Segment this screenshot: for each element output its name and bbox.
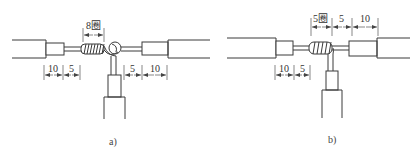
dim-label-left-sleeve-b: 10 [279,63,289,74]
dim-label-right-sleeve-a: 10 [150,63,160,74]
dim-right-a: 5 10 [124,63,167,80]
coil-b [309,42,332,54]
dim-coil-a: 8圈 [83,20,104,42]
right-cable-a [142,40,210,58]
left-cable-a [12,40,64,58]
dim-label-right-bare-a: 5 [130,63,135,74]
dim-label-coil-b: 5圈 [313,13,328,24]
branch-cable-a [104,56,125,119]
dim-top-b: 5圈 5 10 [311,13,378,36]
branch-cable-b [322,48,342,118]
right-cable-b [349,38,410,58]
dim-label-top-bare-b: 5 [339,13,344,24]
knot-a [104,42,121,56]
dim-left-a: 10 5 [44,63,80,80]
wire-joint-diagram: 8圈 10 5 5 10 a) [0,0,419,157]
dim-label-top-sleeve-b: 10 [360,13,370,24]
dim-label-left-bare-b: 5 [300,63,305,74]
panel-a: 8圈 10 5 5 10 a) [12,20,210,148]
dim-label-left-bare-a: 5 [69,63,74,74]
caption-a: a) [109,136,117,148]
panel-b: 5圈 5 10 10 5 b) [227,13,410,146]
dim-left-b: 10 5 [275,63,310,80]
caption-b: b) [328,134,336,146]
dim-label-left-sleeve-a: 10 [48,63,58,74]
coil-a [81,44,104,54]
left-cable-b [227,38,293,58]
dim-label-coil-a: 8圈 [86,20,101,31]
